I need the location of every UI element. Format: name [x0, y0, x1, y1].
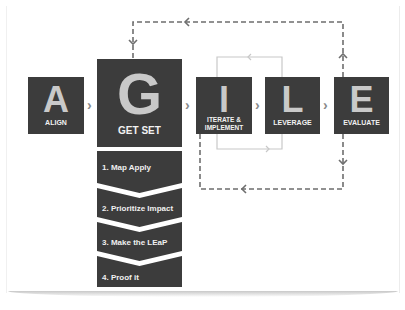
step-item: 4. Proof it	[97, 273, 182, 283]
step-label: 1. Map Apply	[102, 163, 151, 172]
step-item: 2. Prioritize Impact	[97, 204, 182, 214]
step-label: 2. Prioritize Impact	[102, 204, 173, 213]
step-item: 3. Make the LEaP	[97, 238, 182, 248]
step-label: 3. Make the LEaP	[102, 238, 167, 247]
step-label: 4. Proof it	[102, 273, 139, 282]
step-item: 1. Map Apply	[97, 163, 182, 173]
step-chevrons	[0, 0, 405, 310]
